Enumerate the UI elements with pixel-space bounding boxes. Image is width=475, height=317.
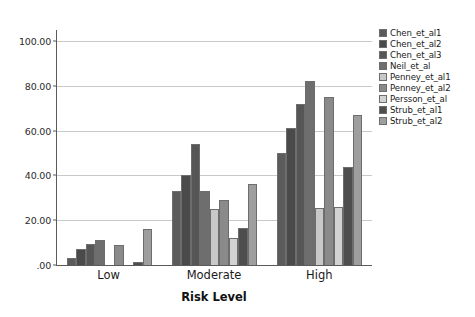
legend-item-label: Neil_et_al (390, 61, 430, 71)
bar (210, 209, 220, 265)
legend-swatch-icon (379, 95, 387, 103)
bar (238, 228, 248, 265)
legend-item-label: Chen_et_al3 (390, 50, 441, 60)
legend-swatch-icon (379, 106, 387, 114)
bar-groups (57, 30, 372, 265)
x-axis-tick-labels: LowModerateHigh (56, 268, 372, 282)
bar (172, 191, 182, 265)
y-axis-tick-label: 20.00 (25, 215, 51, 226)
y-axis-tick-label: 60.00 (25, 125, 51, 136)
bar (277, 153, 287, 265)
bar (86, 244, 96, 265)
bar (181, 175, 191, 265)
bar (324, 97, 334, 265)
legend-item[interactable]: Penney_et_al2 (379, 82, 475, 93)
y-axis-tick-label: .00 (36, 260, 51, 271)
bar (95, 240, 105, 265)
bar (76, 249, 86, 265)
bar (315, 208, 325, 265)
bar (343, 167, 353, 265)
legend-item[interactable]: Persson_et_al (379, 93, 475, 104)
bar-group-moderate (162, 30, 267, 265)
bar (133, 262, 143, 265)
bar (305, 81, 315, 265)
legend-swatch-icon (379, 40, 387, 48)
x-axis-tick-label: Moderate (161, 268, 266, 282)
bar (334, 207, 344, 265)
bar-group-low (57, 30, 162, 265)
bar (248, 184, 258, 265)
bar (286, 128, 296, 265)
legend-item[interactable]: Penney_et_al1 (379, 71, 475, 82)
plot-area: .0020.0040.0060.0080.00100.00 (56, 30, 372, 266)
bar (114, 245, 124, 265)
bar (143, 229, 153, 265)
chart-legend: Chen_et_al1Chen_et_al2Chen_et_al3Neil_et… (379, 27, 475, 126)
legend-swatch-icon (379, 117, 387, 125)
bar (353, 115, 363, 265)
legend-item-label: Penney_et_al2 (390, 83, 451, 93)
legend-item-label: Chen_et_al2 (390, 39, 441, 49)
y-axis-tick-label: 100.00 (19, 36, 51, 47)
legend-item[interactable]: Chen_et_al1 (379, 27, 475, 38)
legend-swatch-icon (379, 29, 387, 37)
legend-swatch-icon (379, 84, 387, 92)
bar-chart: .0020.0040.0060.0080.00100.00 LowModerat… (0, 0, 475, 317)
legend-swatch-icon (379, 73, 387, 81)
legend-item-label: Strub_et_al1 (390, 105, 442, 115)
legend-item[interactable]: Strub_et_al1 (379, 104, 475, 115)
legend-item[interactable]: Chen_et_al2 (379, 38, 475, 49)
bar (67, 258, 77, 265)
bar (191, 144, 201, 265)
bar (296, 104, 306, 265)
legend-item-label: Strub_et_al2 (390, 116, 442, 126)
y-axis-tick-label: 80.00 (25, 80, 51, 91)
legend-swatch-icon (379, 51, 387, 59)
x-axis-tick-label: High (267, 268, 372, 282)
legend-item-label: Persson_et_al (390, 94, 447, 104)
y-axis-tick-label: 40.00 (25, 170, 51, 181)
gridline (57, 265, 372, 266)
legend-item[interactable]: Chen_et_al3 (379, 49, 475, 60)
x-axis-title: Risk Level (56, 290, 372, 304)
bar (200, 191, 210, 265)
bar (219, 200, 229, 265)
x-axis-tick-label: Low (56, 268, 161, 282)
bar-group-high (267, 30, 372, 265)
legend-item[interactable]: Strub_et_al2 (379, 115, 475, 126)
bar (229, 238, 239, 265)
legend-item-label: Penney_et_al1 (390, 72, 451, 82)
legend-item[interactable]: Neil_et_al (379, 60, 475, 71)
legend-item-label: Chen_et_al1 (390, 28, 441, 38)
legend-swatch-icon (379, 62, 387, 70)
